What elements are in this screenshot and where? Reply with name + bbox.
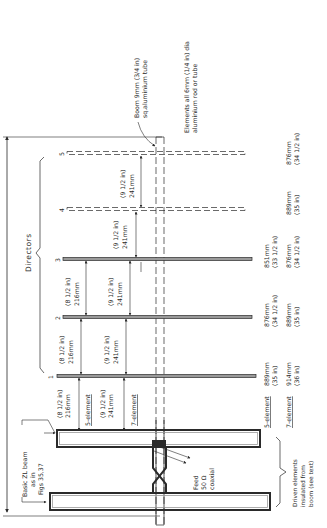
svg-text:216mm: 216mm bbox=[73, 282, 80, 306]
svg-text:876mm: 876mm bbox=[285, 244, 292, 268]
svg-text:241mm: 241mm bbox=[128, 174, 135, 198]
length-element-2-5el: 876mm (34 1/2 in) bbox=[263, 295, 278, 327]
length-7el-tag: 7-element bbox=[285, 396, 292, 428]
length-element-3-5el: 851mm (33 1/2 in) bbox=[263, 236, 278, 268]
director-5: 5 bbox=[58, 152, 245, 157]
director-2-number: 2 bbox=[54, 316, 61, 320]
director-1-number: 1 bbox=[47, 375, 54, 379]
svg-text:241mm: 241mm bbox=[107, 394, 114, 418]
director-3-number: 3 bbox=[54, 258, 61, 262]
boom bbox=[156, 137, 164, 525]
driven-brace: Driven elements insulated from boom (see… bbox=[276, 437, 314, 507]
feed-label: Feed 50 Ω coaxial bbox=[192, 468, 215, 490]
directors-label: Directors bbox=[24, 233, 33, 272]
length-element-5-7el: 876mm (34 1/2 in) bbox=[285, 133, 300, 165]
director-4-number: 4 bbox=[58, 208, 65, 212]
elements-label-line1: Elements all 6mm (1/4 in) dia bbox=[183, 41, 190, 133]
yagi-antenna-diagram: Boom 9mm (3/4 in) sq.aluminium tube Elem… bbox=[0, 0, 327, 528]
svg-text:(35 in): (35 in) bbox=[271, 366, 278, 386]
svg-text:851mm: 851mm bbox=[263, 244, 270, 268]
elements-label-line2: aluminium rod or tube bbox=[191, 64, 198, 133]
svg-text:241mm: 241mm bbox=[116, 282, 123, 306]
five-element-tag: 5-element bbox=[84, 394, 91, 426]
svg-text:(9 1/2 in): (9 1/2 in) bbox=[103, 336, 110, 364]
svg-text:(8 1/2 in): (8 1/2 in) bbox=[58, 336, 65, 364]
svg-text:(34 1/2 in): (34 1/2 in) bbox=[271, 295, 278, 327]
length-element-1-7el: 914mm (36 in) bbox=[285, 362, 300, 386]
director-3: 3 bbox=[54, 258, 252, 263]
svg-text:216mm: 216mm bbox=[64, 394, 71, 418]
director-4: 4 bbox=[58, 208, 245, 213]
basic-zl-label: Basic ZL beam as in Figs 35,37 bbox=[21, 420, 55, 502]
svg-text:216mm: 216mm bbox=[67, 340, 74, 364]
boom-label-line1: Boom 9mm (3/4 in) bbox=[133, 58, 140, 118]
svg-text:5-element: 5-element bbox=[84, 394, 91, 426]
spacing-7el-1-2: 241mm (9 1/2 in) bbox=[103, 336, 119, 364]
svg-text:876mm: 876mm bbox=[285, 141, 292, 165]
spacing-7el-driven-1: 241mm (9 1/2 in) bbox=[99, 390, 114, 418]
svg-text:241mm: 241mm bbox=[112, 340, 119, 364]
boom-label: Boom 9mm (3/4 in) sq.aluminium tube bbox=[133, 58, 155, 146]
svg-text:889mm: 889mm bbox=[263, 362, 270, 386]
directors-brace: Directors bbox=[24, 157, 44, 373]
svg-text:(9 1/2 in): (9 1/2 in) bbox=[99, 390, 106, 418]
seven-element-tag: 7-element bbox=[130, 394, 137, 426]
svg-text:(35 in): (35 in) bbox=[293, 195, 300, 215]
svg-text:Feed: Feed bbox=[192, 475, 199, 490]
svg-text:insulated from: insulated from bbox=[300, 465, 306, 507]
length-element-3-7el: 876mm (34 1/2 in) bbox=[285, 236, 300, 268]
svg-text:(33 1/2 in): (33 1/2 in) bbox=[271, 236, 278, 268]
spacing-7el-2-3: 241mm (9 1/2 in) bbox=[107, 278, 123, 306]
svg-text:5-element: 5-element bbox=[263, 396, 270, 428]
length-element-2-7el: 889mm (35 in) bbox=[285, 303, 300, 327]
svg-text:(8 1/2 in): (8 1/2 in) bbox=[56, 390, 63, 418]
svg-text:Basic ZL beam: Basic ZL beam bbox=[21, 451, 28, 497]
svg-text:(9 1/2 in): (9 1/2 in) bbox=[119, 170, 126, 198]
driven-element-lower bbox=[50, 493, 270, 510]
svg-text:(35 in): (35 in) bbox=[293, 307, 300, 327]
svg-text:as in: as in bbox=[29, 472, 36, 487]
length-element-4-7el: 889mm (35 in) bbox=[285, 191, 300, 215]
spacing-5el-2-3: 216mm (8 1/2 in) bbox=[64, 278, 80, 306]
director-5-number: 5 bbox=[58, 152, 65, 156]
svg-text:(9 1/2 in): (9 1/2 in) bbox=[112, 221, 119, 249]
elements-label: Elements all 6mm (1/4 in) dia aluminium … bbox=[183, 41, 198, 133]
spacing-5el-1-2: 216mm (8 1/2 in) bbox=[58, 336, 74, 364]
svg-text:7-element: 7-element bbox=[285, 396, 292, 428]
svg-text:(36 in): (36 in) bbox=[293, 366, 300, 386]
svg-text:7-element: 7-element bbox=[130, 394, 137, 426]
boom-label-line2: sq.aluminium tube bbox=[141, 60, 149, 118]
svg-text:Driven elements: Driven elements bbox=[292, 459, 298, 507]
svg-text:coaxial: coaxial bbox=[208, 468, 215, 490]
svg-text:boom (see text): boom (see text) bbox=[308, 461, 314, 507]
svg-text:(8 1/2 in): (8 1/2 in) bbox=[64, 278, 71, 306]
svg-text:Figs 35,37: Figs 35,37 bbox=[37, 463, 45, 495]
svg-text:50 Ω: 50 Ω bbox=[200, 475, 207, 490]
svg-text:889mm: 889mm bbox=[285, 191, 292, 215]
feed-arrows bbox=[154, 446, 190, 463]
director-1: 1 bbox=[47, 375, 256, 380]
spacing-5el-driven-1: 216mm (8 1/2 in) bbox=[56, 390, 71, 418]
svg-text:241mm: 241mm bbox=[121, 225, 128, 249]
spacing-7el-4-5: 241mm (9 1/2 in) bbox=[119, 170, 135, 198]
length-5el-tag: 5-element bbox=[263, 396, 270, 428]
svg-text:914mm: 914mm bbox=[285, 362, 292, 386]
svg-text:(9 1/2 in): (9 1/2 in) bbox=[107, 278, 114, 306]
spacing-7el-3-4: 241mm (9 1/2 in) bbox=[112, 221, 128, 249]
length-element-1-5el: 889mm (35 in) bbox=[263, 362, 278, 386]
svg-text:876mm: 876mm bbox=[263, 303, 270, 327]
director-2: 2 bbox=[54, 316, 252, 321]
svg-text:(34 1/2 in): (34 1/2 in) bbox=[293, 236, 300, 268]
svg-text:(34 1/2 in): (34 1/2 in) bbox=[293, 133, 300, 165]
svg-text:889mm: 889mm bbox=[285, 303, 292, 327]
